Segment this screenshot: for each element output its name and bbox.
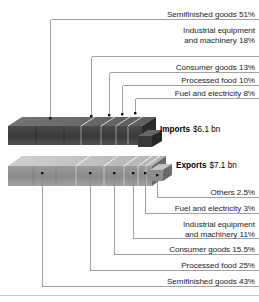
series-total-exports: $7.1 bn [209, 161, 236, 170]
series-total-imports: $6.1 bn [193, 125, 220, 134]
label-exports-consumer: Consumer goods 15.5% [169, 245, 255, 255]
series-label-exports: Exports$7.1 bn [176, 161, 237, 170]
label-imports-semifinished: Semifinished goods 51% [167, 10, 255, 20]
label-imports-industrial-line2: and machinery 18% [184, 36, 255, 45]
label-exports-industrial-line1: Industrial equipment [183, 220, 255, 229]
label-imports-processed: Processed food 10% [181, 76, 255, 86]
series-name-imports: Imports [160, 125, 190, 134]
chart-graphics [0, 0, 259, 302]
imports-bar [8, 112, 162, 147]
label-imports-consumer: Consumer goods 13% [176, 63, 255, 73]
label-imports-industrial: Industrial equipment and machinery 18% [105, 26, 255, 45]
chart-canvas: Semifinished goods 51% Industrial equipm… [0, 0, 259, 302]
label-exports-others: Others 2.5% [211, 188, 255, 198]
label-exports-industrial-line2: and machinery 11% [185, 230, 255, 239]
series-label-imports: Imports$6.1 bn [160, 125, 220, 134]
label-imports-industrial-line1: Industrial equipment [183, 26, 255, 35]
series-name-exports: Exports [176, 161, 206, 170]
label-imports-fuel: Fuel and electricity 8% [175, 89, 255, 99]
label-exports-processed: Processed food 25% [181, 261, 255, 271]
label-exports-semifinished: Semifinished goods 43% [167, 277, 255, 287]
label-exports-fuel: Fuel and electricity 3% [175, 204, 255, 214]
label-exports-industrial: Industrial equipment and machinery 11% [105, 220, 255, 239]
exports-bar [8, 156, 172, 186]
